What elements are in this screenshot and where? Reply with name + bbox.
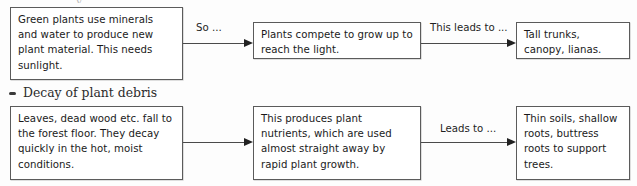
connector-label-leads-to: Leads to ... bbox=[440, 123, 496, 135]
flow-diagram-page: y Green plants use minerals and water to… bbox=[0, 0, 637, 186]
arrow-head bbox=[507, 138, 516, 146]
arrow-head bbox=[244, 138, 253, 146]
arrow-head bbox=[244, 39, 253, 47]
arrow-shaft bbox=[421, 142, 508, 143]
box-plants-compete: Plants compete to grow up to reach the l… bbox=[253, 22, 421, 59]
connector-label-this-leads-to: This leads to ... bbox=[430, 22, 508, 34]
arrow-compete-to-tall-trunks bbox=[421, 39, 516, 48]
section-heading-decay-of-plant-debris: Decay of plant debris bbox=[9, 86, 157, 100]
arrow-head bbox=[507, 39, 516, 47]
arrow-leaves-to-nutrients bbox=[183, 138, 253, 147]
arrow-shaft bbox=[183, 43, 245, 44]
box-plant-nutrients: This produces plant nutrients, which are… bbox=[253, 106, 421, 180]
connector-label-so: So ... bbox=[196, 22, 222, 34]
box-tall-trunks: Tall trunks, canopy, lianas. bbox=[516, 22, 630, 59]
arrow-shaft bbox=[421, 43, 508, 44]
scan-artifact-text: y bbox=[76, 0, 100, 3]
arrow-shaft bbox=[183, 142, 245, 143]
box-leaves-fall: Leaves, dead wood etc. fall to the fores… bbox=[10, 106, 183, 180]
bullet-dash-icon bbox=[9, 92, 16, 95]
arrow-nutrients-to-thin-soils bbox=[421, 138, 516, 147]
section-heading-label: Decay of plant debris bbox=[23, 86, 157, 100]
arrow-green-plants-to-compete bbox=[183, 39, 253, 48]
box-thin-soils: Thin soils, shallow roots, buttress root… bbox=[516, 106, 630, 180]
box-green-plants: Green plants use minerals and water to p… bbox=[10, 7, 183, 80]
